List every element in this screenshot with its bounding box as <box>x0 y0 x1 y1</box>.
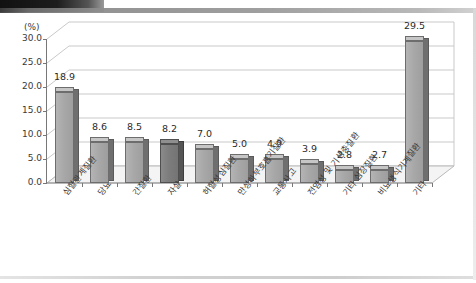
y-tick-label: 20.0 <box>6 81 42 91</box>
x-tick-mark <box>432 183 433 187</box>
x-tick-mark <box>117 183 118 187</box>
x-tick-mark <box>362 183 363 187</box>
y-tick-label: 15.0 <box>6 105 42 115</box>
bar-front-face <box>160 144 179 183</box>
x-tick-mark <box>397 183 398 187</box>
x-tick-mark <box>152 183 153 187</box>
bar-column <box>160 139 179 183</box>
y-tick-mark <box>43 87 47 88</box>
x-tick-mark <box>292 183 293 187</box>
bar-value-label: 29.5 <box>393 20 437 31</box>
y-tick-mark <box>43 111 47 112</box>
y-tick-label: 0.0 <box>6 177 42 187</box>
x-tick-mark <box>327 183 328 187</box>
x-tick-mark <box>222 183 223 187</box>
bar-value-label: 18.9 <box>43 71 87 82</box>
x-tick-mark <box>257 183 258 187</box>
scanned-chart-page: (%) 0.05.010.015.020.025.030.0 18.98.68.… <box>0 0 476 283</box>
y-tick-label: 30.0 <box>6 33 42 43</box>
y-tick-label: 25.0 <box>6 57 42 67</box>
y-tick-mark <box>43 39 47 40</box>
bar-column <box>55 87 74 183</box>
y-tick-label: 5.0 <box>6 153 42 163</box>
y-tick-mark <box>43 63 47 64</box>
x-tick-mark <box>82 183 83 187</box>
x-tick-mark <box>187 183 188 187</box>
y-tick-label: 10.0 <box>6 129 42 139</box>
y-tick-mark <box>43 135 47 136</box>
bar-front-face <box>55 92 74 183</box>
y-tick-mark <box>43 159 47 160</box>
y-tick-mark <box>43 183 47 184</box>
